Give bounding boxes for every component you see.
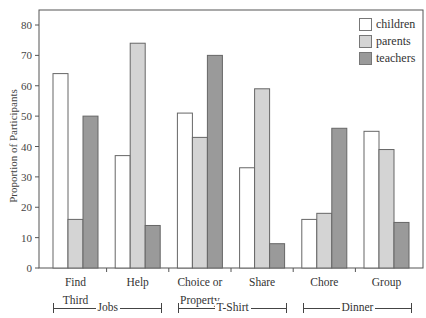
x-category-label-line: Help xyxy=(103,273,173,291)
bar-parents xyxy=(192,137,207,268)
bar-teachers xyxy=(332,128,347,268)
group-bracket-t-shirt: T-Shirt xyxy=(178,302,287,314)
grouped-bar-chart: 01020304050607080 Proportion of Particip… xyxy=(0,0,426,318)
legend-swatch-children xyxy=(359,18,372,31)
bar-teachers xyxy=(394,222,409,268)
y-tick-label: 50 xyxy=(21,110,33,122)
bar-children xyxy=(302,219,317,268)
bar-parents xyxy=(379,150,394,268)
y-tick-label: 10 xyxy=(21,232,33,244)
bracket-cap xyxy=(178,303,179,313)
x-category-label-line: Find xyxy=(41,273,111,291)
bracket-cap xyxy=(286,303,287,313)
bar-children xyxy=(240,168,255,268)
bracket-cap xyxy=(303,303,304,313)
legend-label: children xyxy=(376,17,415,32)
bar-children xyxy=(364,131,379,268)
legend-item-teachers: teachers xyxy=(359,50,415,67)
bar-children xyxy=(115,156,130,268)
y-tick-label: 30 xyxy=(21,171,33,183)
y-tick-label: 0 xyxy=(27,262,33,274)
legend-item-children: children xyxy=(359,16,415,33)
x-category-label-line: Chore xyxy=(289,273,359,291)
y-axis-label: Proportion of Participants xyxy=(7,81,19,211)
legend-label: teachers xyxy=(376,51,415,66)
group-bracket-jobs: Jobs xyxy=(53,302,162,314)
legend-swatch-parents xyxy=(359,35,372,48)
legend: children parents teachers xyxy=(359,16,415,67)
bar-parents xyxy=(317,213,332,268)
bracket-cap xyxy=(411,303,412,313)
legend-item-parents: parents xyxy=(359,33,415,50)
x-category-label: Chore xyxy=(289,273,359,291)
group-label: Jobs xyxy=(96,301,120,313)
x-category-label: Help xyxy=(103,273,173,291)
x-category-label-line: Share xyxy=(227,273,297,291)
legend-swatch-teachers xyxy=(359,52,372,65)
bar-parents xyxy=(130,43,145,268)
bar-parents xyxy=(68,219,83,268)
y-tick-label: 60 xyxy=(21,80,33,92)
x-category-label: Group xyxy=(352,273,422,291)
x-category-label-line: Group xyxy=(352,273,422,291)
bar-parents xyxy=(255,89,270,268)
bracket-cap xyxy=(161,303,162,313)
bracket-cap xyxy=(53,303,54,313)
group-label: Dinner xyxy=(340,301,376,313)
bar-children xyxy=(177,113,192,268)
legend-label: parents xyxy=(376,34,411,49)
group-label: T-Shirt xyxy=(215,301,251,313)
y-tick-label: 80 xyxy=(21,19,33,31)
y-tick-label: 40 xyxy=(21,141,33,153)
bar-teachers xyxy=(207,55,222,268)
bar-teachers xyxy=(270,244,285,268)
y-tick-label: 70 xyxy=(21,49,33,61)
y-tick-label: 20 xyxy=(21,201,33,213)
bar-teachers xyxy=(145,225,160,268)
x-category-label-line: Choice or xyxy=(165,273,235,291)
x-category-label: Share xyxy=(227,273,297,291)
bar-teachers xyxy=(83,116,98,268)
bar-children xyxy=(53,74,68,268)
group-bracket-dinner: Dinner xyxy=(303,302,412,314)
